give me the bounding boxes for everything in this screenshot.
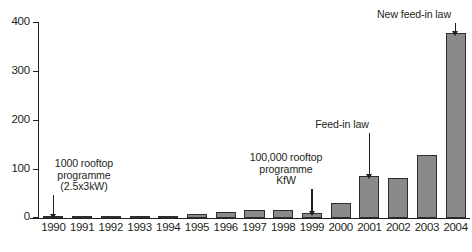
bar-1997: [244, 210, 264, 218]
annotation-new-feed-in-law: New feed-in law: [358, 9, 470, 21]
x-label-1991: 1991: [68, 221, 97, 233]
bar-1994: [158, 216, 178, 218]
bar-1993: [130, 216, 150, 218]
y-tick-label-0: 0: [0, 211, 30, 223]
x-label-1998: 1998: [269, 221, 298, 233]
bar-1991: [72, 216, 92, 218]
x-label-1993: 1993: [125, 221, 154, 233]
x-label-2004: 2004: [441, 221, 470, 233]
x-label-1995: 1995: [183, 221, 212, 233]
x-label-1996: 1996: [211, 221, 240, 233]
y-tick-label-200: 200: [0, 114, 30, 126]
y-tick-label-400: 400: [0, 16, 30, 28]
x-label-1997: 1997: [240, 221, 269, 233]
bar-2002: [388, 178, 408, 218]
annotation-1000-rooftop-programme: 1000 rooftop programme (2.5x3kW): [36, 158, 132, 193]
x-label-1992: 1992: [96, 221, 125, 233]
bar-1996: [216, 212, 236, 218]
bar-1995: [187, 214, 207, 218]
x-label-1990: 1990: [39, 221, 68, 233]
bar-2003: [417, 155, 437, 218]
bar-2004: [446, 33, 466, 218]
annotation-arrow-2001: [369, 133, 370, 174]
bar-2000: [331, 203, 351, 218]
annotation-arrow-1990: [53, 195, 54, 214]
y-tick-label-300: 300: [0, 65, 30, 77]
x-label-2003: 2003: [413, 221, 442, 233]
x-label-2000: 2000: [326, 221, 355, 233]
annotation-feed-in-law: Feed-in law: [289, 119, 395, 131]
bar-1998: [273, 210, 293, 218]
annotation-arrow-1999: [311, 189, 312, 211]
x-label-1999: 1999: [298, 221, 327, 233]
y-tick-label-100: 100: [0, 163, 30, 175]
annotation-arrow-2004: [455, 23, 456, 32]
x-label-2002: 2002: [384, 221, 413, 233]
bar-chart: 400 300 200 100 0 1990199119921993199419…: [0, 0, 472, 252]
bar-2001: [359, 176, 379, 218]
annotation-100000-rooftop-programme-kfw: 100,000 rooftop programme KfW: [233, 152, 339, 187]
x-label-2001: 2001: [355, 221, 384, 233]
x-label-1994: 1994: [154, 221, 183, 233]
bar-1992: [101, 216, 121, 218]
